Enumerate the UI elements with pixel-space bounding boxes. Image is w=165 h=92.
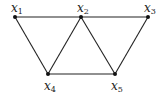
node-label-subscript: 5 bbox=[118, 85, 123, 92]
edge-x2-x4 bbox=[48, 17, 81, 74]
node-label-subscript: 3 bbox=[151, 7, 156, 16]
node-x5 bbox=[113, 72, 117, 76]
edge-x2-x5 bbox=[81, 17, 115, 74]
node-label-subscript: 2 bbox=[84, 7, 89, 16]
node-label-x1: x1 bbox=[11, 2, 23, 16]
graph-diagram: x1x2x3x4x5 bbox=[0, 0, 165, 92]
node-x4 bbox=[46, 72, 50, 76]
node-label-var: x bbox=[144, 1, 151, 15]
node-label-x3: x3 bbox=[144, 2, 156, 16]
node-label-subscript: 4 bbox=[51, 85, 56, 92]
edge-x3-x5 bbox=[115, 17, 148, 74]
node-label-x4: x4 bbox=[44, 80, 56, 92]
node-label-var: x bbox=[44, 79, 51, 92]
node-label-var: x bbox=[77, 1, 84, 15]
edge-x1-x4 bbox=[15, 17, 48, 74]
node-label-x5: x5 bbox=[111, 80, 123, 92]
node-label-var: x bbox=[11, 1, 18, 15]
node-label-x2: x2 bbox=[77, 2, 89, 16]
node-label-var: x bbox=[111, 79, 118, 92]
node-label-subscript: 1 bbox=[18, 7, 23, 16]
